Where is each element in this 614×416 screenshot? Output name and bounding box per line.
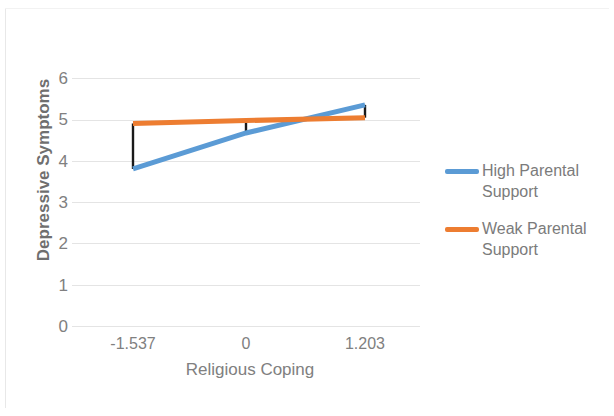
legend-color-swatch-icon xyxy=(445,227,479,232)
legend-item-weak-parental-support[interactable]: Weak Parental Support xyxy=(445,218,613,260)
chart-container: 6 5 4 3 2 1 0 Depressive Symptoms -1.537… xyxy=(0,0,614,416)
chart-frame-top-border xyxy=(5,8,609,9)
x-tick-label-2: 1.203 xyxy=(320,336,410,352)
y-axis-title: Depressive Symptoms xyxy=(34,60,54,280)
y-tick-label-0: 0 xyxy=(42,318,68,335)
gridline-3 xyxy=(72,202,420,203)
chart-frame-left-border xyxy=(5,8,6,408)
gridline-0 xyxy=(72,326,420,327)
x-tick-label-1: 0 xyxy=(201,336,291,352)
gridline-4 xyxy=(72,161,420,162)
x-tick-label-0: -1.537 xyxy=(88,336,178,352)
gridline-6 xyxy=(72,78,420,79)
chart-legend: High Parental Support Weak Parental Supp… xyxy=(445,160,613,276)
plot-area xyxy=(72,78,420,326)
gridline-5 xyxy=(72,120,420,121)
gridline-2 xyxy=(72,243,420,244)
x-axis-title: Religious Coping xyxy=(140,360,360,380)
gridline-1 xyxy=(72,285,420,286)
legend-label-high-parental-support: High Parental Support xyxy=(482,160,613,202)
legend-label-weak-parental-support: Weak Parental Support xyxy=(482,218,613,260)
legend-item-high-parental-support[interactable]: High Parental Support xyxy=(445,160,613,202)
legend-color-swatch-icon xyxy=(445,169,479,174)
